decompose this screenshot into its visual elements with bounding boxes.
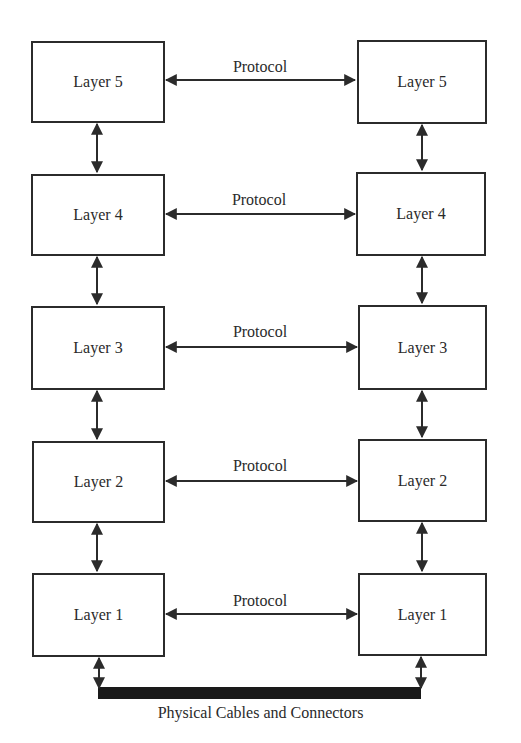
physical-link-label: Physical Cables and Connectors <box>0 704 521 722</box>
left-layer-3-label: Layer 3 <box>73 339 122 357</box>
physical-cable <box>98 657 421 699</box>
left-layer-3-box: Layer 3 <box>31 306 165 390</box>
right-layer-1-label: Layer 1 <box>398 606 447 624</box>
left-layer-4-label: Layer 4 <box>73 206 122 224</box>
right-layer-5-label: Layer 5 <box>397 73 446 91</box>
left-layer-2-box: Layer 2 <box>32 441 165 523</box>
right-layer-4-label: Layer 4 <box>396 205 445 223</box>
right-layer-3-label: Layer 3 <box>398 339 447 357</box>
right-layer-1-box: Layer 1 <box>358 573 487 656</box>
protocol-label-layer-2: Protocol <box>180 457 340 475</box>
left-layer-4-box: Layer 4 <box>31 174 165 256</box>
left-layer-1-box: Layer 1 <box>32 573 165 657</box>
left-layer-2-label: Layer 2 <box>74 473 123 491</box>
right-layer-5-box: Layer 5 <box>357 40 487 124</box>
protocol-label-layer-4: Protocol <box>179 191 339 209</box>
left-layer-5-box: Layer 5 <box>31 41 165 123</box>
right-layer-3-box: Layer 3 <box>358 305 487 390</box>
cable-bar <box>98 687 421 699</box>
protocol-arrows <box>166 80 357 614</box>
right-layer-4-box: Layer 4 <box>356 172 486 256</box>
left-layer-5-label: Layer 5 <box>73 73 122 91</box>
left-layer-1-label: Layer 1 <box>74 606 123 624</box>
protocol-label-layer-1: Protocol <box>180 592 340 610</box>
protocol-label-layer-3: Protocol <box>180 323 340 341</box>
protocol-label-layer-5: Protocol <box>180 58 340 76</box>
right-layer-2-box: Layer 2 <box>358 439 487 522</box>
right-layer-2-label: Layer 2 <box>398 472 447 490</box>
